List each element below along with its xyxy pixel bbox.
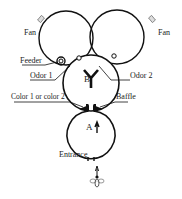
entrance-arrow-icon — [96, 166, 99, 176]
right-port-icon — [112, 54, 116, 58]
arrow-up-icon — [95, 122, 99, 133]
label-baffle: Baffle — [116, 92, 136, 101]
label-entrance: Entrance — [59, 150, 88, 159]
label-fan-right: Fan — [158, 28, 170, 37]
bee-icon — [90, 175, 104, 187]
fan-right-icon — [149, 15, 156, 22]
label-chamber-a: A — [86, 122, 93, 132]
label-fan-left: Fan — [24, 28, 36, 37]
label-feeder: Feeder — [20, 56, 42, 65]
feeder-icon — [57, 57, 65, 65]
label-odor2: Odor 2 — [130, 71, 152, 80]
label-chamber-b: B — [84, 74, 90, 84]
fan-left-icon — [38, 15, 45, 22]
olfactometer-diagram: Fan Fan Feeder Odor 1 Odor 2 B Color 1 o… — [0, 0, 182, 199]
left-port-icon — [77, 56, 81, 60]
label-color: Color 1 or color 2 — [11, 92, 65, 101]
label-odor1: Odor 1 — [30, 71, 52, 80]
